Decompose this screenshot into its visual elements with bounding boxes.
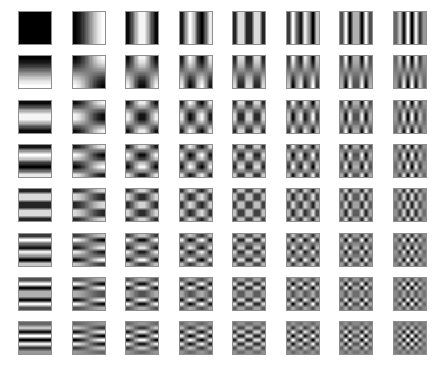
basis-tile-canvas bbox=[19, 101, 51, 133]
basis-tile-canvas bbox=[73, 189, 105, 221]
basis-tile-u1-v4 bbox=[232, 55, 266, 89]
basis-tile-canvas bbox=[73, 12, 105, 44]
basis-tile-canvas bbox=[19, 322, 51, 354]
basis-tile-u2-v4 bbox=[232, 100, 266, 134]
basis-tile-canvas bbox=[233, 189, 265, 221]
basis-tile-canvas bbox=[180, 56, 212, 88]
basis-tile-canvas bbox=[73, 56, 105, 88]
basis-tile-canvas bbox=[19, 12, 51, 44]
basis-tile-canvas bbox=[340, 189, 372, 221]
basis-tile-canvas bbox=[126, 189, 158, 221]
basis-row bbox=[0, 100, 436, 136]
basis-tile-canvas bbox=[233, 145, 265, 177]
basis-tile-canvas bbox=[394, 101, 426, 133]
basis-tile-canvas bbox=[287, 101, 319, 133]
basis-tile-canvas bbox=[126, 234, 158, 266]
basis-tile-canvas bbox=[233, 101, 265, 133]
basis-tile-u2-v5 bbox=[286, 100, 320, 134]
basis-tile-u1-v0 bbox=[18, 55, 52, 89]
basis-tile-u0-v7 bbox=[393, 11, 427, 45]
basis-tile-canvas bbox=[340, 145, 372, 177]
basis-tile-u7-v0 bbox=[18, 321, 52, 355]
basis-tile-canvas bbox=[19, 278, 51, 310]
basis-tile-u2-v7 bbox=[393, 100, 427, 134]
basis-tile-canvas bbox=[287, 145, 319, 177]
basis-tile-u4-v7 bbox=[393, 188, 427, 222]
basis-tile-u5-v7 bbox=[393, 233, 427, 267]
basis-tile-u2-v6 bbox=[339, 100, 373, 134]
basis-tile-u0-v3 bbox=[179, 11, 213, 45]
basis-tile-canvas bbox=[340, 56, 372, 88]
basis-tile-u6-v7 bbox=[393, 277, 427, 311]
basis-tile-u5-v2 bbox=[125, 233, 159, 267]
basis-tile-canvas bbox=[233, 322, 265, 354]
basis-tile-canvas bbox=[394, 322, 426, 354]
basis-tile-u6-v6 bbox=[339, 277, 373, 311]
basis-tile-u0-v4 bbox=[232, 11, 266, 45]
basis-tile-canvas bbox=[73, 234, 105, 266]
basis-tile-canvas bbox=[287, 12, 319, 44]
basis-row bbox=[0, 144, 436, 180]
basis-tile-u6-v3 bbox=[179, 277, 213, 311]
basis-tile-u7-v4 bbox=[232, 321, 266, 355]
basis-tile-canvas bbox=[394, 145, 426, 177]
basis-tile-canvas bbox=[233, 234, 265, 266]
basis-row bbox=[0, 11, 436, 47]
basis-tile-u7-v3 bbox=[179, 321, 213, 355]
basis-tile-u4-v5 bbox=[286, 188, 320, 222]
basis-tile-canvas bbox=[394, 234, 426, 266]
basis-tile-u2-v3 bbox=[179, 100, 213, 134]
basis-tile-u1-v3 bbox=[179, 55, 213, 89]
basis-tile-u7-v5 bbox=[286, 321, 320, 355]
basis-tile-u6-v2 bbox=[125, 277, 159, 311]
basis-tile-canvas bbox=[180, 101, 212, 133]
basis-tile-canvas bbox=[19, 189, 51, 221]
basis-tile-canvas bbox=[180, 12, 212, 44]
basis-tile-u4-v3 bbox=[179, 188, 213, 222]
basis-tile-u6-v4 bbox=[232, 277, 266, 311]
basis-tile-u5-v6 bbox=[339, 233, 373, 267]
basis-tile-canvas bbox=[394, 278, 426, 310]
basis-tile-u5-v4 bbox=[232, 233, 266, 267]
basis-tile-canvas bbox=[180, 322, 212, 354]
basis-tile-canvas bbox=[287, 278, 319, 310]
basis-tile-u3-v3 bbox=[179, 144, 213, 178]
basis-tile-canvas bbox=[340, 101, 372, 133]
basis-tile-u5-v1 bbox=[72, 233, 106, 267]
basis-tile-u4-v6 bbox=[339, 188, 373, 222]
basis-tile-canvas bbox=[233, 12, 265, 44]
basis-tile-canvas bbox=[394, 12, 426, 44]
basis-row bbox=[0, 233, 436, 269]
basis-tile-u4-v4 bbox=[232, 188, 266, 222]
basis-tile-u4-v2 bbox=[125, 188, 159, 222]
basis-tile-canvas bbox=[340, 12, 372, 44]
basis-row bbox=[0, 188, 436, 224]
basis-tile-u4-v0 bbox=[18, 188, 52, 222]
basis-tile-canvas bbox=[180, 278, 212, 310]
basis-tile-u2-v1 bbox=[72, 100, 106, 134]
basis-tile-u6-v5 bbox=[286, 277, 320, 311]
basis-row bbox=[0, 55, 436, 91]
basis-tile-canvas bbox=[126, 101, 158, 133]
basis-tile-u0-v2 bbox=[125, 11, 159, 45]
basis-tile-canvas bbox=[394, 56, 426, 88]
basis-tile-u7-v1 bbox=[72, 321, 106, 355]
basis-tile-canvas bbox=[287, 234, 319, 266]
basis-tile-u3-v4 bbox=[232, 144, 266, 178]
basis-tile-canvas bbox=[233, 278, 265, 310]
basis-tile-canvas bbox=[340, 234, 372, 266]
basis-tile-canvas bbox=[394, 189, 426, 221]
basis-tile-u3-v2 bbox=[125, 144, 159, 178]
basis-tile-u1-v1 bbox=[72, 55, 106, 89]
basis-tile-canvas bbox=[19, 234, 51, 266]
basis-tile-u3-v6 bbox=[339, 144, 373, 178]
basis-tile-u1-v7 bbox=[393, 55, 427, 89]
basis-tile-u5-v3 bbox=[179, 233, 213, 267]
basis-tile-u7-v6 bbox=[339, 321, 373, 355]
basis-tile-u1-v5 bbox=[286, 55, 320, 89]
basis-tile-canvas bbox=[19, 145, 51, 177]
basis-tile-canvas bbox=[126, 56, 158, 88]
basis-tile-u3-v0 bbox=[18, 144, 52, 178]
basis-tile-u0-v6 bbox=[339, 11, 373, 45]
basis-tile-u5-v0 bbox=[18, 233, 52, 267]
